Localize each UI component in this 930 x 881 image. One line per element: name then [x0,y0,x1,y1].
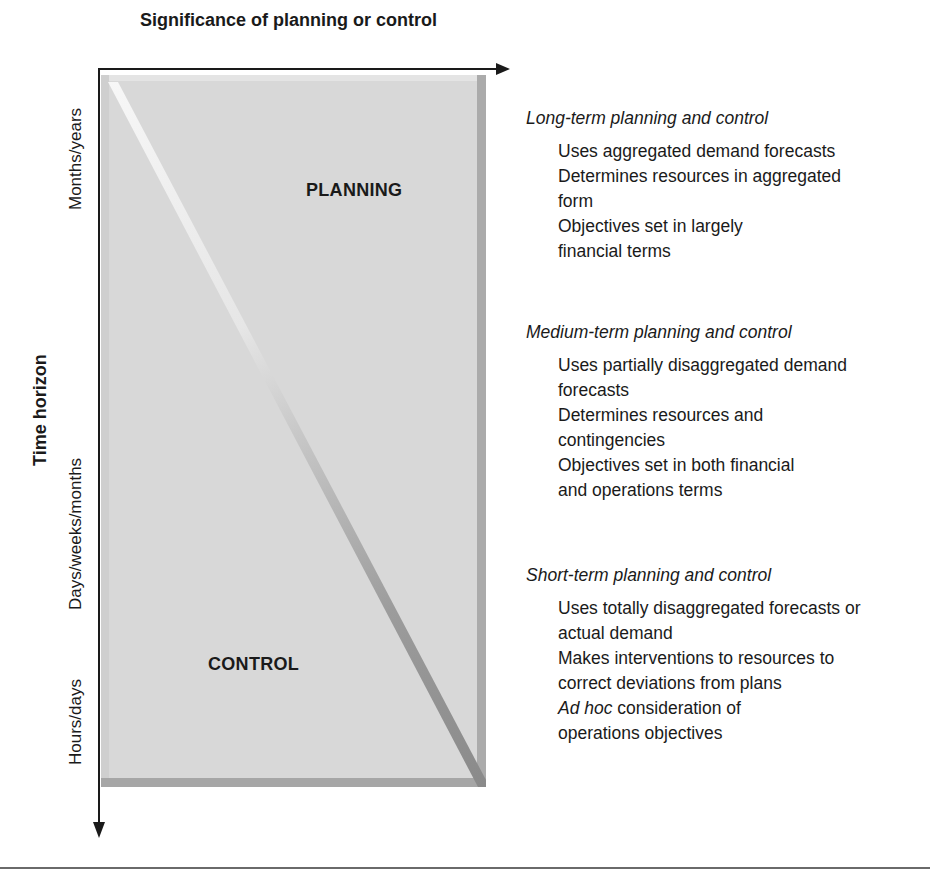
box-right-border [477,75,486,787]
planning-region-label: PLANNING [306,180,402,201]
x-axis-arrow-icon [496,63,510,75]
panel-item: Uses totally disaggregated forecasts or … [558,596,903,646]
time-label-days-weeks-months: Days/weeks/months [66,458,86,610]
box-left-border [101,75,109,778]
box-top-border [101,75,477,81]
panel-item: Ad hoc consideration of operations objec… [558,696,818,746]
control-region-label: CONTROL [208,654,299,675]
x-axis-title: Significance of planning or control [140,10,437,31]
time-label-months-years: Months/years [66,108,86,210]
panel-item: Objectives set in both financial and ope… [558,453,828,503]
panel-heading: Short-term planning and control [526,563,926,588]
bottom-divider [0,867,930,869]
panel-heading: Long-term planning and control [526,106,926,131]
y-axis-title: Time horizon [30,354,51,466]
panel-item: Uses aggregated demand forecasts [558,139,926,164]
panel-item: Uses partially disaggregated demand fore… [558,353,908,403]
panel-item: Makes interventions to resources to corr… [558,646,838,696]
short-term-panel: Short-term planning and control Uses tot… [526,563,926,746]
panel-heading: Medium-term planning and control [526,320,926,345]
time-label-hours-days: Hours/days [66,679,86,765]
medium-term-panel: Medium-term planning and control Uses pa… [526,320,926,503]
y-axis-arrow-icon [93,822,105,838]
long-term-panel: Long-term planning and control Uses aggr… [526,106,926,264]
panel-item: Determines resources and contingencies [558,403,808,453]
ad-hoc-italic: Ad hoc [558,698,612,718]
panel-item: Determines resources in aggregated form [558,164,858,214]
box-bottom-border [101,778,486,787]
panel-item: Objectives set in largely financial term… [558,214,788,264]
